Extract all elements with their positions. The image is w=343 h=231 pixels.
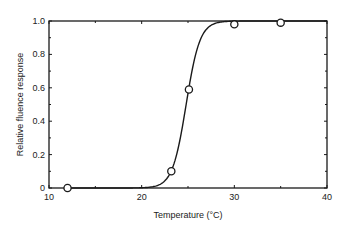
y-tick-labels: 00.20.40.60.81.0 bbox=[32, 16, 45, 193]
x-tick-label: 10 bbox=[44, 192, 54, 202]
y-tick-label: 0.2 bbox=[32, 150, 45, 160]
data-point bbox=[64, 184, 71, 191]
x-tick-label: 40 bbox=[322, 192, 332, 202]
y-tick-label: 0.4 bbox=[32, 116, 45, 126]
plot-frame bbox=[49, 21, 327, 188]
data-points bbox=[64, 19, 284, 192]
x-tick-label: 20 bbox=[137, 192, 147, 202]
fit-curve bbox=[68, 21, 327, 188]
x-axis-label: Temperature (°C) bbox=[153, 210, 222, 220]
chart: 10203040 00.20.40.60.81.0 Temperature (°… bbox=[0, 0, 343, 231]
x-tick-labels: 10203040 bbox=[44, 192, 332, 202]
data-point bbox=[231, 21, 238, 28]
y-tick-label: 0.8 bbox=[32, 49, 45, 59]
y-tick-label: 0.6 bbox=[32, 83, 45, 93]
y-tick-label: 0 bbox=[40, 183, 45, 193]
y-tick-label: 1.0 bbox=[32, 16, 45, 26]
axis-ticks bbox=[49, 21, 327, 188]
y-axis-label: Relative fluence response bbox=[15, 53, 25, 157]
data-point bbox=[185, 86, 192, 93]
x-tick-label: 30 bbox=[229, 192, 239, 202]
data-point bbox=[277, 19, 284, 26]
data-point bbox=[168, 168, 175, 175]
